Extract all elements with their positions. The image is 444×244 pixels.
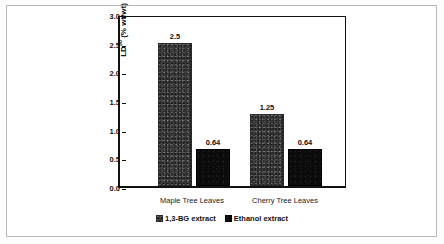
bar-cherry-1-3-bg[interactable]: 1.25 (250, 114, 284, 186)
figure-container: LD50 (% wt/wt) 3.0 2.5 2.0 1.5 1.0 0.5 0… (0, 0, 444, 244)
legend-swatch-1-3-bg-icon (156, 215, 163, 222)
legend-swatch-ethanol-icon (225, 215, 232, 222)
legend-item-1-3-bg[interactable]: 1,3-BG extract (156, 214, 216, 223)
legend-item-ethanol[interactable]: Ethanol extract (225, 214, 288, 223)
y-tick-label: 0.0 (110, 184, 120, 193)
y-tick-mark (122, 46, 126, 47)
y-tick-mark (122, 103, 126, 104)
category-label-cherry: Cherry Tree Leaves (252, 196, 318, 205)
y-tick-label: 1.0 (110, 127, 120, 136)
bar-value-label: 0.64 (206, 138, 221, 147)
legend-label: 1,3-BG extract (165, 214, 216, 223)
y-tick-label: 2.5 (110, 41, 120, 50)
y-tick-mark (122, 189, 126, 190)
bar-maple-1-3-bg[interactable]: 2.5 (158, 43, 192, 186)
bar-value-label: 2.5 (170, 32, 180, 41)
y-tick-mark (122, 132, 126, 133)
legend: 1,3-BG extract Ethanol extract (0, 214, 444, 223)
bar-cherry-ethanol[interactable]: 0.64 (288, 149, 322, 186)
y-tick-label: 2.0 (110, 69, 120, 78)
y-tick-label: 0.5 (110, 155, 120, 164)
legend-label: Ethanol extract (234, 214, 288, 223)
bar-maple-ethanol[interactable]: 0.64 (196, 149, 230, 186)
plot-area: LD50 (% wt/wt) 3.0 2.5 2.0 1.5 1.0 0.5 0… (118, 16, 346, 188)
bar-value-label: 1.25 (260, 103, 275, 112)
category-label-maple: Maple Tree Leaves (160, 196, 224, 205)
y-axis-title-base: LD (119, 46, 128, 57)
y-tick-label: 1.5 (110, 98, 120, 107)
bar-value-label: 0.64 (298, 138, 313, 147)
y-tick-mark (122, 160, 126, 161)
y-tick-mark (122, 17, 126, 18)
y-tick-label: 3.0 (110, 12, 120, 21)
y-axis-title-unit: (% wt/wt) (119, 3, 128, 40)
y-tick-mark (122, 74, 126, 75)
